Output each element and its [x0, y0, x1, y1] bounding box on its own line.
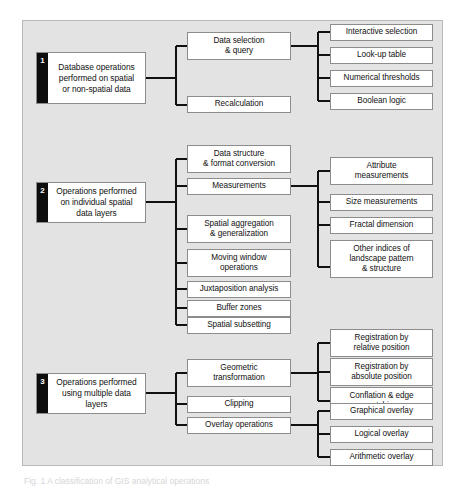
node-clipping[interactable]: Clipping: [187, 396, 291, 413]
node-registration-by-relative-position[interactable]: Registration by relative position: [330, 329, 433, 357]
node-spatial-subsetting[interactable]: Spatial subsetting: [187, 317, 291, 334]
node-attribute-measurements[interactable]: Attribute measurements: [330, 157, 433, 185]
node-graphical-overlay[interactable]: Graphical overlay: [330, 403, 433, 420]
node-geometric-transformation[interactable]: Geometric transformation: [187, 359, 291, 387]
node-look-up-table[interactable]: Look-up table: [330, 47, 433, 64]
node-data-structure-format-conversion[interactable]: Data structure & format conversion: [187, 145, 291, 173]
node-logical-overlay[interactable]: Logical overlay: [330, 426, 433, 443]
node-juxtaposition-analysis[interactable]: Juxtaposition analysis: [187, 281, 291, 298]
node-fractal-dimension[interactable]: Fractal dimension: [330, 217, 433, 234]
node-interactive-selection[interactable]: Interactive selection: [330, 24, 433, 41]
node-moving-window-operations[interactable]: Moving window operations: [187, 249, 291, 277]
section-3-number-tab: 3: [37, 374, 48, 413]
section-2-number-tab: 2: [37, 183, 48, 222]
node-boolean-logic[interactable]: Boolean logic: [330, 93, 433, 110]
figure-stage: 1 Database operations performed on spati…: [0, 0, 460, 500]
node-spatial-aggregation-generalization[interactable]: Spatial aggregation & generalization: [187, 215, 291, 243]
section-3-main-box[interactable]: 3 Operations performed using multiple da…: [36, 373, 146, 414]
node-buffer-zones[interactable]: Buffer zones: [187, 300, 291, 317]
node-numerical-thresholds[interactable]: Numerical thresholds: [330, 70, 433, 87]
node-data-selection-query[interactable]: Data selection & query: [187, 32, 291, 60]
section-3-title: Operations performed using multiple data…: [50, 377, 143, 410]
node-size-measurements[interactable]: Size measurements: [330, 194, 433, 211]
figure-caption: Fig. 1 A classification of GIS analytica…: [24, 476, 444, 487]
section-1-number-tab: 1: [37, 53, 48, 103]
node-other-indices-landscape-pattern-structure[interactable]: Other indices of landscape pattern & str…: [330, 240, 433, 278]
section-2-main-box[interactable]: 2 Operations performed on individual spa…: [36, 182, 146, 223]
node-overlay-operations[interactable]: Overlay operations: [187, 417, 291, 434]
node-arithmetic-overlay[interactable]: Arithmetic overlay: [330, 449, 433, 466]
section-1-main-box[interactable]: 1 Database operations performed on spati…: [36, 52, 146, 104]
section-1-title: Database operations performed on spatial…: [50, 62, 143, 95]
node-recalculation[interactable]: Recalculation: [187, 96, 291, 113]
section-2-title: Operations performed on individual spati…: [50, 186, 143, 219]
node-registration-by-absolute-position[interactable]: Registration by absolute position: [330, 358, 433, 386]
node-measurements[interactable]: Measurements: [187, 178, 291, 195]
